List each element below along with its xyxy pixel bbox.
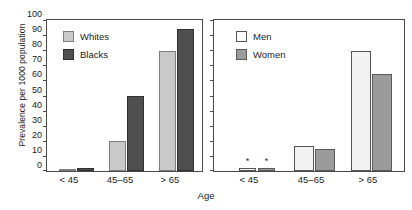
bar-women-gt65 (372, 74, 392, 172)
bar-women-45-65 (315, 149, 335, 172)
y-tick-label: 20 (16, 130, 42, 139)
bar-blacks-45-65 (127, 96, 144, 171)
legend-race: Whites Blacks (63, 28, 109, 64)
y-tick-label: 80 (16, 40, 42, 49)
legend-label-whites: Whites (80, 31, 109, 42)
bar-blacks-lt45 (77, 168, 94, 172)
x-tick-label-left-gt65: > 65 (148, 174, 192, 185)
bar-women-lt45 (258, 168, 275, 172)
x-tick-label-right-lt45: < 45 (227, 174, 271, 185)
y-tick-label: 0 (16, 161, 42, 170)
annotation-star-men-lt45: * (243, 157, 253, 166)
annotation-star-women-lt45: * (262, 157, 272, 166)
legend-item-men: Men (236, 28, 286, 44)
legend-item-blacks: Blacks (63, 46, 109, 62)
bar-whites-lt45 (59, 169, 76, 171)
legend-swatch-icon-whites (63, 31, 74, 42)
legend-swatch-icon-men (236, 31, 247, 42)
panel-sex: * * Men Women (213, 19, 405, 172)
legend-item-whites: Whites (63, 28, 109, 44)
bar-blacks-gt65 (177, 29, 194, 172)
bar-men-gt65 (351, 51, 371, 171)
bar-whites-gt65 (159, 51, 176, 171)
x-tick-label-left-45-65: 45–65 (98, 174, 142, 185)
bar-men-lt45 (239, 168, 256, 171)
x-tick-label-right-gt65: > 65 (346, 174, 390, 185)
legend-swatch-icon-women (236, 49, 247, 60)
legend-label-men: Men (253, 31, 271, 42)
y-axis-tick-labels: 100 90 80 70 60 50 40 30 20 10 0 (16, 14, 42, 176)
x-tick-label-left-lt45: < 45 (47, 174, 91, 185)
legend-label-blacks: Blacks (80, 49, 108, 60)
x-axis-title: Age (0, 190, 412, 201)
y-tick-label: 10 (16, 145, 42, 154)
legend-swatch-icon-blacks (63, 49, 74, 60)
y-tick-label: 100 (16, 10, 42, 19)
y-tick-label: 90 (16, 25, 42, 34)
y-tick-label: 60 (16, 70, 42, 79)
x-tick-label-right-45-65: 45–65 (289, 174, 333, 185)
legend-sex: Men Women (236, 28, 286, 64)
y-tick-label: 70 (16, 55, 42, 64)
y-tick-label: 40 (16, 100, 42, 109)
bar-men-45-65 (294, 146, 314, 172)
bar-whites-45-65 (109, 141, 126, 171)
bar-chart-figure: Prevalence per 1000 population 100 90 80… (0, 0, 412, 210)
legend-item-women: Women (236, 46, 286, 62)
y-tick-label: 50 (16, 85, 42, 94)
panel-race: Whites Blacks (46, 19, 203, 172)
legend-label-women: Women (253, 49, 286, 60)
y-tick-label: 30 (16, 115, 42, 124)
